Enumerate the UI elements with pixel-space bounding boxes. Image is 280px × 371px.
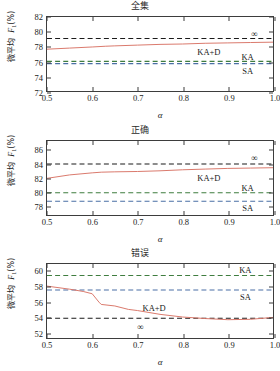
plot-area: 52545658600.50.60.70.80.91.0KASAKA+D∞ [46, 263, 274, 339]
x-axis-tick-mark [47, 17, 48, 21]
y-axis-tick-label: 58 [35, 282, 44, 291]
x-axis-tick-mark [47, 211, 48, 215]
x-axis-tick-mark [275, 211, 276, 215]
y-axis-tick-mark [269, 17, 273, 18]
y-axis-tick-mark [269, 47, 273, 48]
x-axis-tick-mark [229, 141, 230, 145]
x-axis-tick-mark [138, 211, 139, 215]
x-axis-tick-mark [92, 141, 93, 145]
x-axis-tick-mark [229, 264, 230, 268]
x-axis-tick-label: 0.5 [42, 341, 53, 350]
x-axis-tick-label: 0.6 [87, 218, 98, 227]
y-axis-tick-label: 56 [35, 298, 44, 307]
y-axis-tick-mark [47, 32, 51, 33]
x-axis-tick-label: 0.8 [178, 94, 189, 103]
panel-title: 错误 [0, 247, 280, 259]
y-axis-label: 微平均 F1(%) 微平均 F1(%) [7, 0, 20, 83]
y-axis-tick-mark [269, 318, 273, 319]
y-axis-tick-mark [269, 286, 273, 287]
x-axis-tick-mark [138, 141, 139, 145]
x-axis-tick-mark [138, 87, 139, 91]
y-axis-tick-mark [47, 150, 51, 151]
x-axis-label: α [46, 234, 274, 244]
x-axis-tick-label: 1.0 [270, 341, 280, 350]
x-axis-tick-mark [47, 141, 48, 145]
y-axis-label: 微平均 F1(%) [7, 236, 20, 330]
x-axis-tick-mark [229, 334, 230, 338]
curve-annotation-KA: KA [241, 52, 253, 61]
x-axis-tick-label: 0.9 [224, 218, 235, 227]
y-axis-tick-label: 74 [35, 73, 44, 82]
y-axis-tick-mark [47, 62, 51, 63]
y-axis-tick-mark [47, 77, 51, 78]
x-axis-tick-label: 0.7 [133, 218, 144, 227]
chart-panel-2: 错误 微平均 F1(%) 52545658600.50.60.70.80.91.… [0, 247, 280, 371]
curve-annotation-KA+D: KA+D [197, 48, 220, 57]
y-axis-tick-label: 82 [35, 174, 44, 183]
x-axis-tick-label: 0.9 [224, 341, 235, 350]
plot-canvas [47, 141, 273, 215]
x-axis-tick-mark [138, 264, 139, 268]
x-axis-tick-label: 0.7 [133, 341, 144, 350]
x-axis-tick-mark [183, 17, 184, 21]
x-axis-tick-mark [183, 87, 184, 91]
y-axis-tick-mark [47, 47, 51, 48]
curve-annotation-SA: SA [242, 66, 253, 75]
chart-panel-0: 全集 微平均 F1(%) 微平均 F1(%) 7274767880820.50.… [0, 0, 280, 124]
y-axis-label: 微平均 F1(%) [7, 113, 20, 207]
x-axis-tick-mark [47, 87, 48, 91]
x-axis-tick-mark [92, 334, 93, 338]
x-axis-tick-mark [183, 334, 184, 338]
x-axis-tick-mark [275, 141, 276, 145]
y-axis-tick-mark [47, 318, 51, 319]
x-axis-tick-mark [229, 211, 230, 215]
y-axis-tick-label: 78 [35, 43, 44, 52]
y-axis-tick-mark [47, 271, 51, 272]
x-axis-tick-mark [275, 264, 276, 268]
x-axis-tick-mark [138, 17, 139, 21]
x-axis-tick-mark [275, 17, 276, 21]
x-axis-label: α [46, 110, 274, 120]
x-axis-tick-label: 0.5 [42, 94, 53, 103]
y-axis-tick-label: 82 [35, 13, 44, 22]
x-axis-tick-label: 0.6 [87, 341, 98, 350]
y-axis-tick-mark [269, 302, 273, 303]
y-axis-tick-label: 60 [35, 267, 44, 276]
series-line-KA+D [47, 42, 273, 49]
x-axis-tick-label: 0.8 [178, 218, 189, 227]
x-axis-tick-label: 0.6 [87, 94, 98, 103]
y-axis-tick-mark [269, 32, 273, 33]
panel-title: 正确 [0, 124, 280, 136]
y-axis-tick-mark [47, 302, 51, 303]
y-axis-tick-mark [269, 271, 273, 272]
y-axis-tick-mark [269, 77, 273, 78]
x-axis-tick-mark [92, 87, 93, 91]
x-axis-tick-mark [275, 334, 276, 338]
x-axis-tick-label: 0.9 [224, 94, 235, 103]
curve-annotation-KA: KA [239, 266, 251, 275]
y-axis-tick-label: 86 [35, 146, 44, 155]
x-axis-tick-mark [183, 264, 184, 268]
y-axis-tick-mark [269, 333, 273, 334]
y-axis-tick-mark [47, 286, 51, 287]
x-axis-tick-label: 0.7 [133, 94, 144, 103]
y-axis-tick-label: 54 [35, 314, 44, 323]
x-axis-tick-label: 0.8 [178, 341, 189, 350]
x-axis-tick-mark [47, 334, 48, 338]
x-axis-tick-mark [92, 264, 93, 268]
y-axis-tick-label: 52 [35, 329, 44, 338]
y-axis-tick-mark [269, 192, 273, 193]
y-axis-tick-label: 76 [35, 58, 44, 67]
y-axis-tick-mark [47, 164, 51, 165]
curve-annotation-∞: ∞ [251, 154, 257, 163]
y-axis-tick-mark [47, 206, 51, 207]
curve-annotation-KA: KA [241, 184, 253, 193]
plot-area: 78808284860.50.60.70.80.91.0KA+DKASA∞ [46, 140, 274, 216]
y-axis-tick-mark [47, 178, 51, 179]
chart-panel-1: 正确 微平均 F1(%) 78808284860.50.60.70.80.91.… [0, 124, 280, 248]
panel-title: 全集 [0, 0, 280, 12]
x-axis-label: α [46, 357, 274, 367]
curve-annotation-SA: SA [242, 204, 253, 213]
curve-annotation-∞: ∞ [137, 322, 143, 331]
x-axis-tick-mark [183, 141, 184, 145]
